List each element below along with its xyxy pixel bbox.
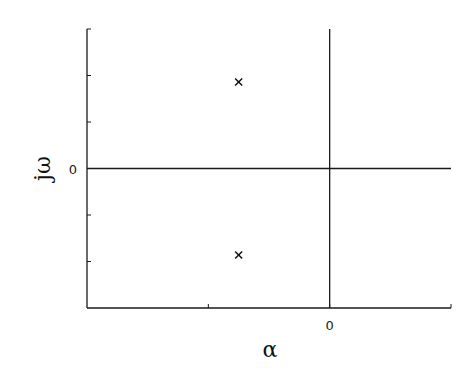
x-axis-label: α: [263, 337, 278, 362]
pole-marker: [235, 79, 242, 86]
pole-marker: [235, 251, 242, 258]
x-tick-label-0: 0: [326, 318, 334, 333]
y-axis-label: jω: [30, 156, 55, 184]
y-tick-label-0: 0: [69, 162, 77, 177]
pole-zero-plot: 0 0 α jω: [0, 0, 471, 373]
